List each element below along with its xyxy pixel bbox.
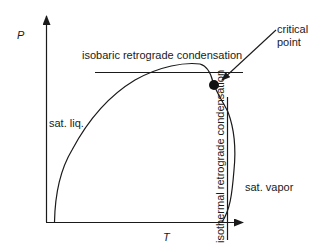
critical-label-line2: point <box>277 36 301 48</box>
isothermal-label: isothermal retrograde condensation <box>214 70 226 243</box>
isobaric-label: isobaric retrograde condensation <box>82 49 242 61</box>
x-axis-label: T <box>163 231 171 243</box>
phase-diagram: P T isobaric retrograde condensation cri… <box>0 0 316 249</box>
sat-vapor-label: sat. vapor <box>245 181 294 193</box>
critical-label-line1: critical <box>277 23 308 35</box>
saturation-curve <box>55 64 235 222</box>
sat-liq-label: sat. liq. <box>49 117 84 129</box>
y-axis-label: P <box>17 29 25 41</box>
